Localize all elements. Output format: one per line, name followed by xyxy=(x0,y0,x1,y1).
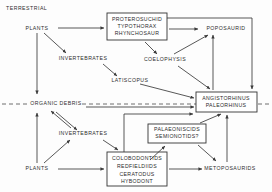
food-web-figure: TERRESTRIAL PLANTS INVERTEBRATES LATISCO… xyxy=(0,0,272,192)
bottom-fish-box-line-1: COLOBODONTIDS xyxy=(112,155,162,161)
node-poposaurid: POPOSAURID xyxy=(206,25,245,31)
food-web-canvas: TERRESTRIAL PLANTS INVERTEBRATES LATISCO… xyxy=(0,0,272,192)
bottom-fish-box-line-3: CERATODUS xyxy=(119,171,154,177)
node-organic-debris: ORGANIC DEBRIS xyxy=(30,100,81,106)
node-coelophysis: COELOPHYSIS xyxy=(144,56,186,62)
reptile-box-line-2: TYPOTHORAX xyxy=(117,23,156,29)
bottom-fish-box-line-4: HYBODONT xyxy=(121,178,154,184)
bottom-fish-box-line-2: REDFIELDIIDS xyxy=(117,163,157,169)
node-metoposaurids: METOPOSAURIDS xyxy=(204,165,255,171)
fish-box-line-1: PALAEONISCIDS xyxy=(154,126,200,132)
phytosaur-box-line-2: PALEORHINUS xyxy=(206,102,247,108)
realm-label-terrestrial: TERRESTRIAL xyxy=(6,5,47,11)
node-invertebrates-terrestrial: INVERTEBRATES xyxy=(59,55,108,61)
node-latiscopus: LATISCOPUS xyxy=(112,77,149,83)
reptile-box-line-1: PROTEROSUCHID xyxy=(112,16,162,22)
node-invertebrates-aquatic: INVERTEBRATES xyxy=(59,130,108,136)
node-plants-terrestrial: PLANTS xyxy=(26,25,49,31)
fish-box-line-2: SEMIONOTIDS? xyxy=(155,133,198,139)
reptile-box-line-3: RHYNCHOSAUR xyxy=(115,30,160,36)
node-plants-aquatic: PLANTS xyxy=(26,165,49,171)
phytosaur-box-line-1: ANGISTORHINUS xyxy=(202,95,250,101)
